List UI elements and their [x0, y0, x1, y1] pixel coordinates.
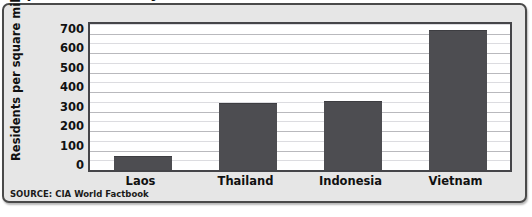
y-axis-title: Residents per square mile	[9, 1, 23, 161]
y-axis-title-container: Residents per square mile	[6, 14, 26, 174]
y-axis-tick-labels: 7006005004003002001000	[34, 20, 84, 172]
bar	[429, 30, 487, 170]
y-axis-tick-label: 200	[34, 121, 84, 132]
x-axis-category-label: Laos	[88, 174, 193, 188]
y-axis-tick-label: 100	[34, 141, 84, 152]
page-title: Population Density of Selected Countries…	[6, 0, 389, 1]
source-note: SOURCE: CIA World Factbook	[10, 189, 149, 199]
y-axis-tick-label: 500	[34, 63, 84, 74]
bar-series	[90, 24, 510, 170]
x-axis-category-label: Vietnam	[403, 174, 508, 188]
y-axis-tick-label: 600	[34, 43, 84, 54]
bar	[219, 103, 277, 170]
bar	[114, 156, 172, 170]
plot-area	[88, 22, 512, 172]
gridline-major	[90, 170, 510, 171]
y-axis-tick-label: 400	[34, 82, 84, 93]
y-axis-tick-label: 700	[34, 24, 84, 35]
x-axis-category-labels: LaosThailandIndonesiaVietnam	[88, 174, 512, 190]
x-axis-category-label: Indonesia	[298, 174, 403, 188]
chart-screenshot: Population Density of Selected Countries…	[0, 0, 532, 217]
x-axis-category-label: Thailand	[193, 174, 298, 188]
bar	[324, 101, 382, 170]
y-axis-tick-label: 300	[34, 102, 84, 113]
y-axis-tick-label: 0	[34, 160, 84, 171]
